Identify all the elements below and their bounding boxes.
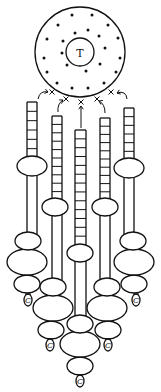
dot <box>91 14 94 17</box>
pendant-label: C <box>77 377 83 386</box>
upper-bead <box>92 198 118 216</box>
dot <box>61 52 64 55</box>
hub-label-t: T <box>76 47 84 60</box>
bead <box>33 295 73 321</box>
dot <box>46 71 49 74</box>
dot <box>98 35 101 38</box>
upper-bead <box>114 158 144 178</box>
bead <box>38 321 64 339</box>
bead <box>67 315 93 333</box>
dot <box>71 87 74 90</box>
dot <box>104 47 107 50</box>
bead <box>94 278 120 296</box>
bead <box>7 249 47 275</box>
pendant-c: C <box>24 294 32 306</box>
dot <box>115 71 118 74</box>
pendant-label: C <box>25 296 31 305</box>
structure-diagram: T CCCCC <box>0 0 161 392</box>
dot <box>117 37 120 40</box>
dot <box>57 24 60 27</box>
pendant-c: C <box>76 375 84 387</box>
dot <box>99 63 102 66</box>
dot <box>62 40 65 43</box>
upper-bead <box>67 244 93 262</box>
pendant-c: C <box>132 294 140 306</box>
bead <box>60 331 100 357</box>
bead <box>40 278 66 296</box>
dot <box>66 64 69 67</box>
dot <box>87 87 90 90</box>
dot <box>46 38 49 41</box>
dot <box>56 82 59 85</box>
bead <box>95 321 121 339</box>
pendant-label: C <box>47 341 53 350</box>
dot <box>85 70 88 73</box>
bead <box>67 357 93 375</box>
bead <box>87 295 127 321</box>
dot <box>107 24 110 27</box>
upper-bead <box>17 156 47 176</box>
dot <box>87 29 90 32</box>
pendant-label: C <box>133 296 139 305</box>
bead <box>14 275 40 293</box>
bead <box>15 232 41 250</box>
dot <box>71 14 74 17</box>
pendant-c: C <box>104 339 112 351</box>
dot <box>103 82 106 85</box>
pendant-c: C <box>46 339 54 351</box>
upper-bead <box>42 198 68 216</box>
dot <box>119 57 122 60</box>
dot <box>74 32 77 35</box>
bead <box>114 249 154 275</box>
bead <box>120 232 146 250</box>
dot <box>43 57 46 60</box>
pendant-label: C <box>105 341 111 350</box>
bead <box>121 275 147 293</box>
